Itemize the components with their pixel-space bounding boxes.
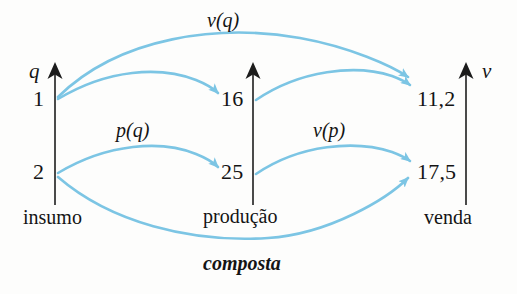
tick-insumo-2: 2 (33, 161, 44, 183)
axis-variable-v: v (482, 61, 491, 82)
caption-insumo: insumo (23, 207, 82, 227)
tick-venda-17-5: 17,5 (417, 161, 456, 183)
axis-insumo (48, 62, 63, 205)
axes-layer (0, 0, 517, 294)
caption-venda: venda (424, 207, 472, 227)
tick-producao-25: 25 (221, 161, 243, 183)
arc-label-vq: v(q) (207, 10, 239, 30)
function-composition-diagram: q v 1 2 16 25 11,2 17,5 insumo produção … (0, 0, 517, 294)
tick-insumo-1: 1 (33, 88, 44, 110)
axis-venda (459, 62, 474, 205)
arc-label-vp: v(p) (313, 120, 345, 140)
caption-producao: produção (203, 206, 277, 226)
tick-producao-16: 16 (221, 88, 243, 110)
axis-producao (246, 62, 261, 205)
axis-variable-q: q (29, 61, 40, 82)
arc-label-pq: p(q) (116, 120, 149, 140)
tick-venda-11-2: 11,2 (417, 88, 455, 110)
caption-composta: composta (203, 253, 281, 273)
